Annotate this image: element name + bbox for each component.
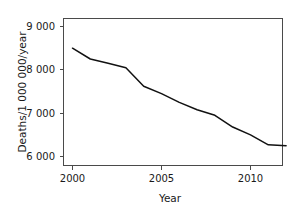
x-tick-label-2010: 2010 [238, 173, 263, 184]
data-series-line [73, 48, 287, 146]
x-axis-title: Year [158, 192, 182, 204]
line-chart-figure: 9 000 8 000 7 000 6 000 2000 2005 2010 Y… [0, 0, 292, 214]
plot-frame [64, 19, 283, 166]
y-axis-ticks [60, 27, 64, 157]
y-axis-title: Deaths/1 000 000/year [16, 31, 28, 153]
y-tick-label-8000: 8 000 [26, 64, 55, 75]
x-tick-label-2005: 2005 [149, 173, 174, 184]
x-axis-ticks [73, 166, 251, 170]
y-tick-label-6000: 6 000 [26, 151, 55, 162]
chart-canvas: 9 000 8 000 7 000 6 000 2000 2005 2010 Y… [0, 0, 292, 214]
x-tick-label-2000: 2000 [60, 173, 85, 184]
y-tick-label-7000: 7 000 [26, 108, 55, 119]
y-tick-label-9000: 9 000 [26, 21, 55, 32]
